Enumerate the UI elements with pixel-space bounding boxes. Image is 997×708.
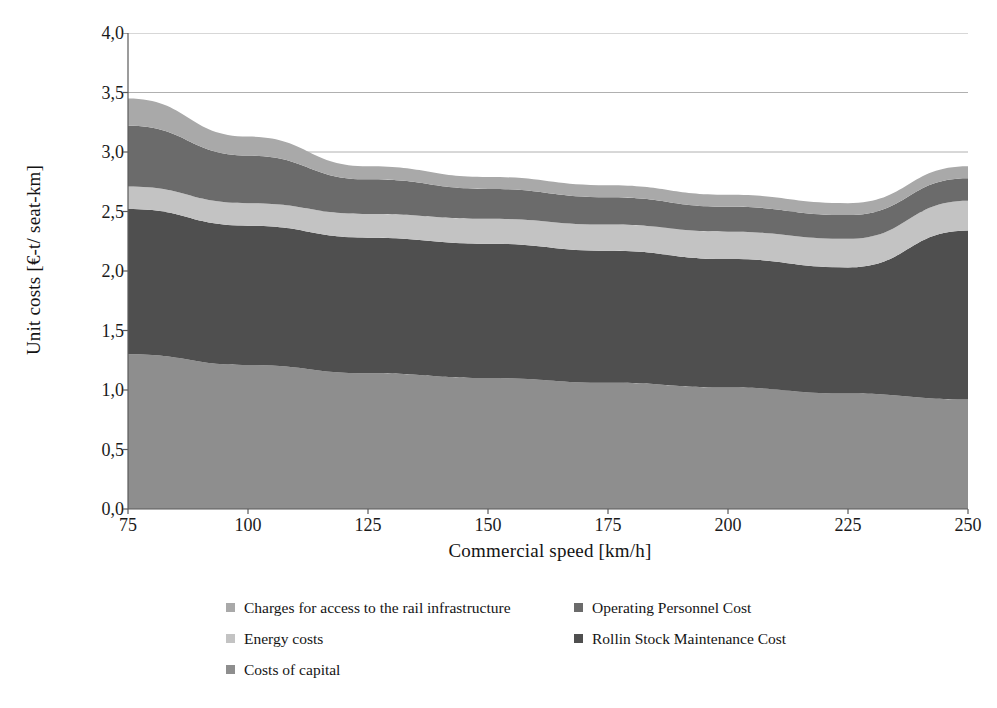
y-axis-title: Unit costs [€-t/ seat-km] bbox=[23, 165, 45, 355]
x-axis-tick-label: 200 bbox=[715, 515, 742, 536]
chart-figure: Unit costs [€-t/ seat-km] 0,00,51,01,52,… bbox=[0, 0, 997, 708]
legend-color-swatch bbox=[226, 634, 235, 643]
legend-item[interactable]: Costs of capital bbox=[226, 654, 574, 685]
y-axis-tick-label: 0,5 bbox=[66, 439, 124, 460]
legend-item[interactable]: Energy costs bbox=[226, 623, 574, 654]
x-axis-tick-label: 150 bbox=[475, 515, 502, 536]
legend-column-right: Operating Personnel CostRollin Stock Mai… bbox=[574, 592, 914, 654]
chart-legend: Charges for access to the rail infrastru… bbox=[226, 592, 926, 685]
y-axis-tick-label: 2,5 bbox=[66, 201, 124, 222]
legend-color-swatch bbox=[226, 665, 235, 674]
x-axis-tick-label: 225 bbox=[835, 515, 862, 536]
legend-item-label: Operating Personnel Cost bbox=[592, 600, 751, 616]
stacked-area-plot bbox=[122, 33, 974, 517]
y-axis-tick-label: 1,0 bbox=[66, 380, 124, 401]
y-axis-tick-label: 1,5 bbox=[66, 320, 124, 341]
legend-column-left: Charges for access to the rail infrastru… bbox=[226, 592, 574, 685]
x-axis-tick-label: 75 bbox=[119, 515, 137, 536]
legend-item-label: Charges for access to the rail infrastru… bbox=[244, 600, 511, 616]
y-axis-title-wrap: Unit costs [€-t/ seat-km] bbox=[14, 0, 54, 520]
y-axis-tick-label: 4,0 bbox=[66, 23, 124, 44]
legend-color-swatch bbox=[226, 603, 235, 612]
x-axis-tick-label: 100 bbox=[235, 515, 262, 536]
legend-item[interactable]: Operating Personnel Cost bbox=[574, 592, 914, 623]
legend-item-label: Costs of capital bbox=[244, 662, 340, 678]
legend-item-label: Rollin Stock Maintenance Cost bbox=[592, 631, 786, 647]
legend-color-swatch bbox=[574, 603, 583, 612]
y-axis-tick-label: 3,5 bbox=[66, 82, 124, 103]
legend-item[interactable]: Rollin Stock Maintenance Cost bbox=[574, 623, 914, 654]
plot-area bbox=[122, 33, 962, 509]
x-axis-tick-label: 250 bbox=[955, 515, 982, 536]
y-axis-tick-label: 2,0 bbox=[66, 261, 124, 282]
legend-color-swatch bbox=[574, 634, 583, 643]
y-axis-tick-labels: 0,00,51,01,52,02,53,03,54,0 bbox=[62, 0, 124, 540]
x-axis-tick-label: 175 bbox=[595, 515, 622, 536]
y-axis-tick-label: 3,0 bbox=[66, 142, 124, 163]
x-axis-tick-label: 125 bbox=[355, 515, 382, 536]
legend-item[interactable]: Charges for access to the rail infrastru… bbox=[226, 592, 574, 623]
x-axis-title: Commercial speed [km/h] bbox=[130, 540, 970, 562]
legend-item-label: Energy costs bbox=[244, 631, 323, 647]
